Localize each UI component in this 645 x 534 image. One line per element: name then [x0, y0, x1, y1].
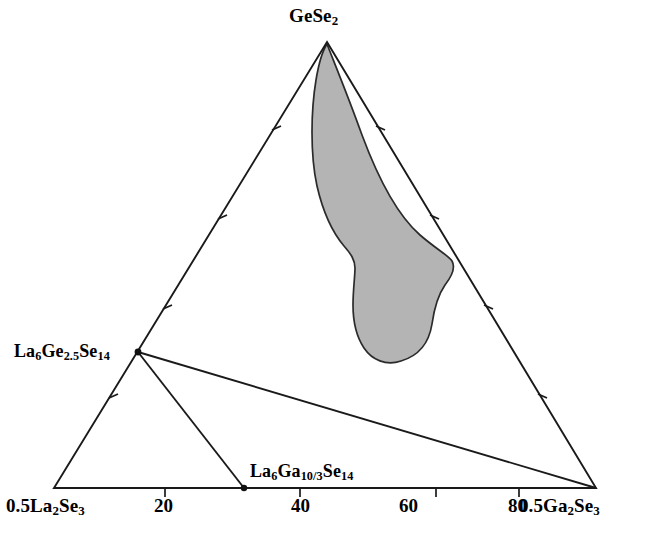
- bottom-axis-ticks: [165, 488, 519, 497]
- compound-label-la6ga103se14: La6Ga10/3Se14: [250, 462, 353, 482]
- glass-forming-region: [312, 44, 454, 363]
- vertex-label-la2se3: 0.5La2Se3: [6, 496, 85, 518]
- vertex-label-gese2: GeSe2: [289, 6, 338, 28]
- diagram-canvas: [0, 0, 645, 534]
- tick-label-40: 40: [291, 496, 310, 515]
- vertex-label-ga2se3: 0.5Ga2Se3: [519, 496, 600, 518]
- tie-line-lage-to-laga: [138, 352, 244, 488]
- tick-label-20: 20: [154, 496, 173, 515]
- marker-la6ga103se14: [241, 485, 247, 491]
- marker-la6ge25se14: [135, 349, 142, 356]
- tick-label-60: 60: [399, 496, 418, 515]
- compound-label-la6ge25se14: La6Ge2.5Se14: [14, 342, 110, 362]
- ternary-phase-diagram: GeSe2 0.5La2Se3 0.5Ga2Se3 La6Ge2.5Se14 L…: [0, 0, 645, 534]
- tick-label-80: 80: [508, 496, 527, 515]
